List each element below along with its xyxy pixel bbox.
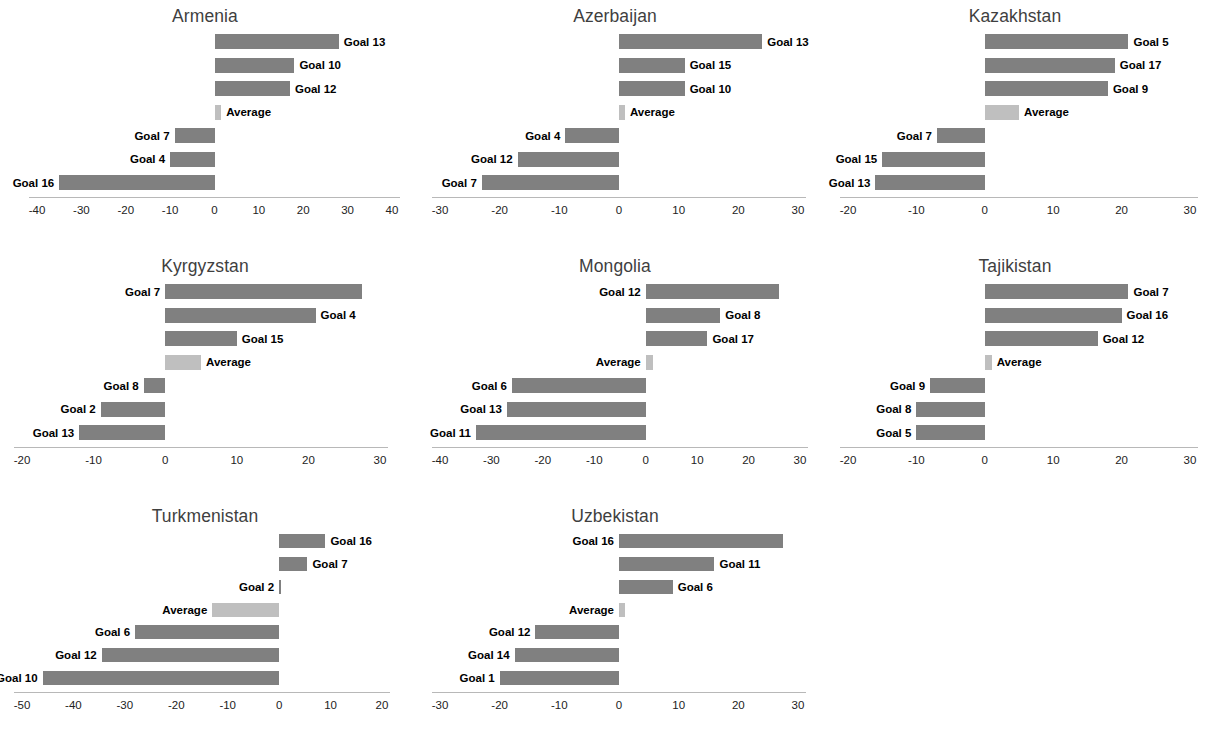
chart-panel: KazakhstanGoal 5Goal 17Goal 9AverageGoal… <box>820 0 1210 250</box>
plot-area: Goal 13Goal 10Goal 12AverageGoal 7Goal 4… <box>0 0 410 250</box>
goal-bar <box>59 175 214 190</box>
x-tick-label: -10 <box>85 454 102 466</box>
goal-bar <box>985 81 1108 96</box>
goal-bar <box>215 81 290 96</box>
x-tick-label: -20 <box>535 454 552 466</box>
plot-area: Goal 5Goal 17Goal 9AverageGoal 7Goal 15G… <box>820 0 1210 250</box>
goal-label: Goal 12 <box>55 649 97 661</box>
goal-label: Goal 7 <box>134 130 169 142</box>
average-label: Average <box>1024 106 1069 118</box>
average-label: Average <box>596 356 641 368</box>
x-tick-label: -10 <box>551 204 568 216</box>
bar-row: Goal 16 <box>0 530 410 553</box>
plot-area: Goal 7Goal 4Goal 15AverageGoal 8Goal 2Go… <box>0 250 410 500</box>
goal-bar <box>135 625 279 639</box>
x-tick-label: 0 <box>616 204 622 216</box>
goal-label: Goal 16 <box>13 177 55 189</box>
goal-bar <box>619 534 783 548</box>
plot-area: Goal 13Goal 15Goal 10AverageGoal 4Goal 1… <box>410 0 820 250</box>
x-tick-label: 0 <box>643 454 649 466</box>
goal-label: Goal 13 <box>344 36 386 48</box>
goal-bar <box>916 402 984 417</box>
bar-row: Average <box>410 101 820 125</box>
x-tick-label: -10 <box>551 699 568 711</box>
x-tick-label: 30 <box>1184 204 1197 216</box>
chart-panel: AzerbaijanGoal 13Goal 15Goal 10AverageGo… <box>410 0 820 250</box>
x-tick-label: 30 <box>341 204 354 216</box>
bar-row: Goal 8 <box>820 398 1210 422</box>
goal-label: Goal 2 <box>239 581 274 593</box>
plot-area: Goal 16Goal 7Goal 2AverageGoal 6Goal 12G… <box>0 500 410 740</box>
x-tick-label: 10 <box>672 204 685 216</box>
goal-bar <box>646 308 721 323</box>
bar-row: Goal 16 <box>0 171 410 195</box>
bar-row: Goal 16 <box>410 530 820 553</box>
x-tick-label: -30 <box>117 699 134 711</box>
goal-bar <box>535 625 619 639</box>
goal-bar <box>101 402 165 417</box>
x-tick-label: -40 <box>65 699 82 711</box>
x-tick-label: 10 <box>1047 454 1060 466</box>
x-axis-line <box>29 197 400 198</box>
bar-row: Goal 13 <box>820 171 1210 195</box>
goal-bar <box>165 331 237 346</box>
goal-label: Goal 16 <box>330 535 372 547</box>
goal-bar <box>619 58 685 73</box>
chart-panel: TajikistanGoal 7Goal 16Goal 12AverageGoa… <box>820 250 1210 500</box>
average-bar <box>619 105 625 120</box>
goal-label: Goal 13 <box>460 403 502 415</box>
goal-label: Goal 7 <box>312 558 347 570</box>
goal-label: Goal 10 <box>690 83 732 95</box>
goal-bar <box>985 284 1129 299</box>
bar-row: Average <box>0 101 410 125</box>
bar-row: Average <box>820 351 1210 375</box>
x-tick-label: -30 <box>73 204 90 216</box>
plot-area: Goal 7Goal 16Goal 12AverageGoal 9Goal 8G… <box>820 250 1210 500</box>
bar-row: Goal 13 <box>0 421 410 445</box>
goal-bar <box>985 34 1129 49</box>
average-label: Average <box>162 604 207 616</box>
goal-bar <box>619 580 673 594</box>
goal-bar <box>646 284 780 299</box>
x-tick-label: -10 <box>219 699 236 711</box>
goal-label: Goal 1 <box>460 672 495 684</box>
goal-label: Goal 9 <box>1113 83 1148 95</box>
x-tick-label: -20 <box>168 699 185 711</box>
x-tick-label: -30 <box>432 204 449 216</box>
x-tick-label: 0 <box>211 204 217 216</box>
x-tick-label: -20 <box>840 454 857 466</box>
bar-row: Goal 16 <box>820 304 1210 328</box>
bar-row: Goal 9 <box>820 77 1210 101</box>
goal-label: Goal 4 <box>525 130 560 142</box>
bar-row: Goal 10 <box>410 77 820 101</box>
bar-row: Goal 7 <box>0 280 410 304</box>
x-axis-line <box>14 447 388 448</box>
bar-row: Goal 4 <box>0 304 410 328</box>
average-bar <box>215 105 222 120</box>
bar-row: Average <box>0 351 410 375</box>
average-label: Average <box>206 356 251 368</box>
goal-label: Goal 10 <box>299 59 341 71</box>
x-tick-label: -40 <box>29 204 46 216</box>
goal-bar <box>512 378 646 393</box>
goal-label: Goal 17 <box>712 333 754 345</box>
bar-row: Goal 15 <box>0 327 410 351</box>
goal-bar <box>875 175 984 190</box>
goal-bar <box>144 378 165 393</box>
x-tick-label: 10 <box>691 454 704 466</box>
bar-row: Goal 13 <box>0 30 410 54</box>
goal-label: Goal 5 <box>1133 36 1168 48</box>
x-axis-line <box>840 197 1198 198</box>
x-tick-label: 30 <box>1184 454 1197 466</box>
goal-label: Goal 13 <box>767 36 809 48</box>
bar-row: Goal 7 <box>820 280 1210 304</box>
bar-row: Goal 17 <box>820 54 1210 78</box>
goal-label: Goal 6 <box>95 626 130 638</box>
x-tick-label: -30 <box>432 699 449 711</box>
bar-row: Goal 12 <box>410 148 820 172</box>
bar-row: Goal 8 <box>410 304 820 328</box>
chart-panel: TurkmenistanGoal 16Goal 7Goal 2AverageGo… <box>0 500 410 740</box>
goal-label: Goal 14 <box>468 649 510 661</box>
x-tick-label: -10 <box>908 204 925 216</box>
goal-bar <box>175 128 215 143</box>
